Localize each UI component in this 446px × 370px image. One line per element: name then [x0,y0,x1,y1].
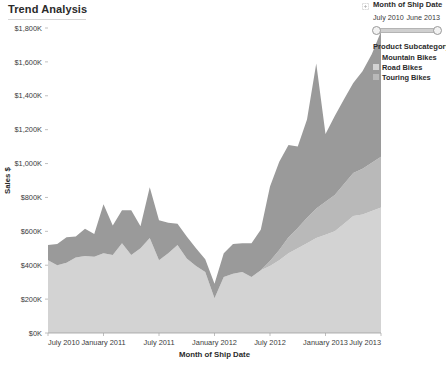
y-axis-tick-label: $600K [21,227,42,236]
legend-swatch-icon [373,74,379,80]
legend-item-label: Touring Bikes [382,73,431,82]
x-axis-tick-label: July 2012 [254,338,286,347]
range-start-label: July 2010 [373,13,404,22]
y-axis-tick-label: $1,000K [14,159,42,168]
x-axis-title: Month of Ship Date [179,350,251,359]
x-axis-tick-label: January 2011 [81,338,125,347]
y-axis-tick-label: $1,200K [14,125,42,134]
y-axis-tick-label: $1,800K [14,24,42,33]
legend-item[interactable]: Mountain Bikes [373,52,446,62]
legend-swatch-icon [373,64,379,70]
y-axis-tick-label: $200K [21,295,42,304]
y-axis-tick-label: $800K [21,193,42,202]
month-filter: Month of Ship Date [360,0,446,12]
x-axis-tick-label: July 2013 [349,338,381,347]
product-subcategory-legend: Product Subcategory Mountain BikesRoad B… [360,41,446,82]
slider-handle-end[interactable] [433,26,442,35]
slider-track[interactable] [374,28,440,33]
legend-item-label: Road Bikes [382,63,422,72]
x-axis-tick-label: January 2013 [303,338,348,347]
y-axis-tick-label: $400K [21,261,42,270]
y-axis-tick-label: $1,600K [14,58,42,67]
control-panel: Month of Ship Date July 2010 June 2013 P… [360,0,446,82]
legend-item[interactable]: Touring Bikes [373,72,446,82]
range-end-label: June 2013 [406,13,440,22]
slider-handle-start[interactable] [372,26,381,35]
legend-title: Product Subcategory [373,41,446,52]
month-range-labels: July 2010 June 2013 [360,12,446,22]
y-axis-title: Sales $ [3,166,12,194]
y-axis-tick-label: $0K [29,329,42,338]
legend-swatch-icon [373,54,379,60]
x-axis-tick-label: July 2011 [143,338,174,347]
y-axis-tick-label: $1,400K [14,91,42,100]
month-filter-title: Month of Ship Date [373,0,446,10]
collapse-icon[interactable] [362,3,369,10]
legend-item-list: Mountain BikesRoad BikesTouring Bikes [373,52,446,82]
legend-item[interactable]: Road Bikes [373,62,446,72]
legend-item-label: Mountain Bikes [382,53,437,62]
x-axis-tick-label: July 2010 [48,338,80,347]
x-axis-tick-label: January 2012 [192,338,237,347]
month-range-slider[interactable] [372,25,442,34]
